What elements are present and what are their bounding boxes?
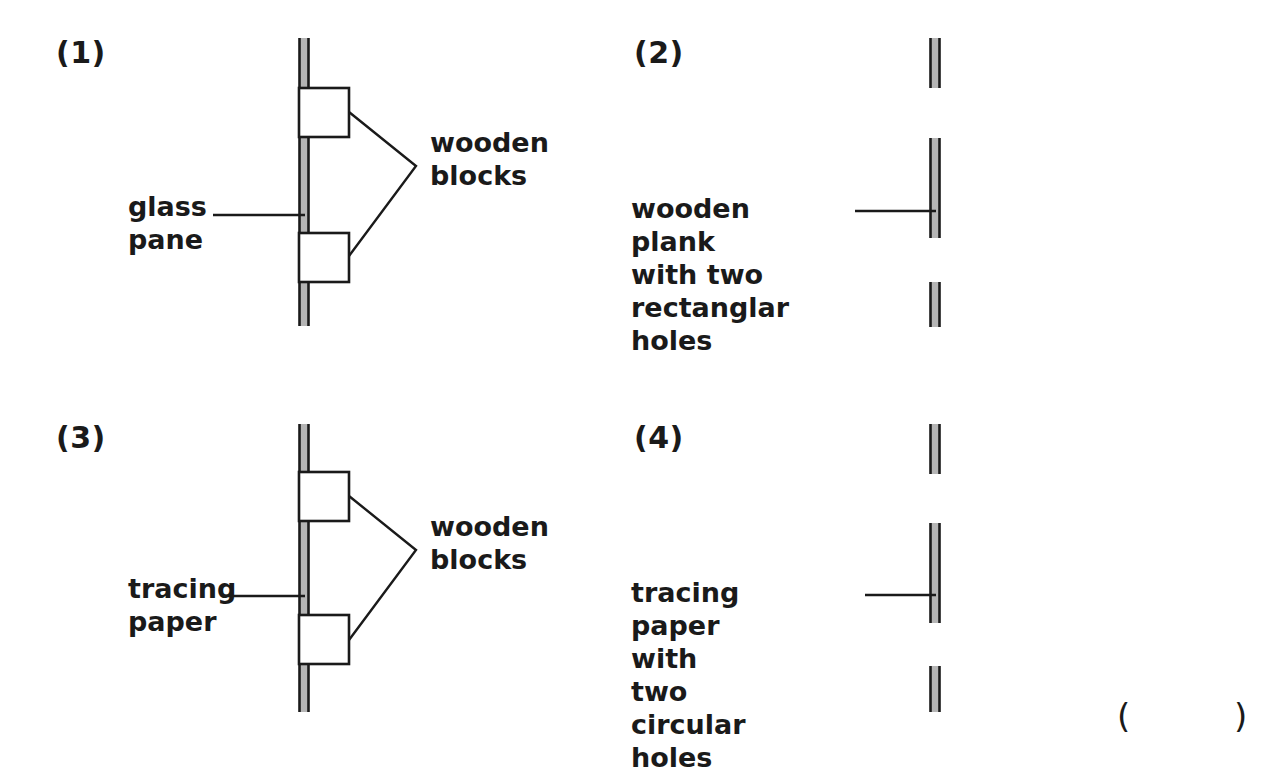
panel-1-glass-pane-label: glass pane xyxy=(128,191,207,257)
panel-2-plank-segment-bottom xyxy=(930,282,940,327)
panel-4-paper-segment-middle xyxy=(930,523,940,623)
panel-1-wooden-block-upper xyxy=(299,88,349,137)
panel-3-wooden-block-lower xyxy=(299,615,349,664)
trailing-open-paren: ( xyxy=(1117,699,1130,733)
panel-1-number: (1) xyxy=(56,38,106,68)
panel-1-glass-pane xyxy=(299,38,309,326)
panel-4-paper-segment-top xyxy=(930,424,940,474)
panel-3-blocks-leader xyxy=(349,496,416,640)
panel-3-number: (3) xyxy=(56,423,106,453)
panel-4-graphics xyxy=(865,424,940,712)
panel-1-wooden-block-lower xyxy=(299,233,349,282)
panel-2-number: (2) xyxy=(634,38,684,68)
panel-3-wooden-blocks-label: wooden blocks xyxy=(430,511,549,577)
panel-2-plank-segment-middle xyxy=(930,138,940,238)
panel-4-paper-segment-bottom xyxy=(930,666,940,712)
panel-4-number: (4) xyxy=(634,423,684,453)
panel-3-tracing-paper xyxy=(299,424,309,712)
panel-1-blocks-leader xyxy=(349,112,416,256)
panel-1-wooden-blocks-label: wooden blocks xyxy=(430,127,549,193)
panel-3-graphics xyxy=(222,424,416,712)
trailing-close-paren: ) xyxy=(1234,699,1247,733)
panel-3-wooden-block-upper xyxy=(299,472,349,521)
panel-1-graphics xyxy=(213,38,416,326)
panel-2-graphics xyxy=(855,38,940,327)
panel-2-wooden-plank-label: wooden plank with two rectanglar holes xyxy=(631,193,789,358)
panel-2-plank-segment-top xyxy=(930,38,940,88)
panel-4-tracing-paper-label: tracing paper with two circular holes xyxy=(631,577,746,771)
panel-3-tracing-paper-label: tracing paper xyxy=(128,573,236,639)
